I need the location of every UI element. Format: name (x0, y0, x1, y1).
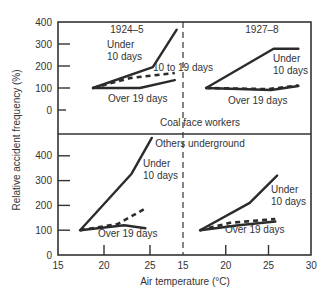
y-tick-label: 100 (35, 83, 52, 94)
y-tick-label: 0 (46, 105, 52, 116)
accident-frequency-chart: 01002003004000100200300400 1520251520253… (0, 0, 331, 303)
annotation-10-19-tl: 10 to 19 days (153, 62, 213, 73)
series-10-to-19-days (93, 73, 175, 88)
annotation-under-10-bl-2: 10 days (143, 170, 178, 181)
annotation-over-19-tr: Over 19 days (228, 95, 287, 106)
x-tick-label: 15 (52, 260, 64, 271)
x-tick-label: 15 (177, 260, 189, 271)
panel-others-1924 (80, 138, 152, 230)
x-tick-label: 20 (220, 260, 232, 271)
y-tick-label: 200 (35, 61, 52, 72)
y-tick-label: 300 (35, 175, 52, 186)
y-tick-label: 0 (46, 250, 52, 261)
y-tick-label: 400 (35, 17, 52, 28)
annotation-under-10-tr-2: 10 days (273, 65, 308, 76)
annotation-over-19-tl: Over 19 days (108, 93, 167, 104)
annotation-over-19-bl: Over 19 days (98, 228, 157, 239)
y-tick-label: 200 (35, 200, 52, 211)
annotation-over-19-br: Over 19 days (225, 224, 284, 235)
group-label-others: Others underground (155, 138, 245, 149)
annotation-under-10-br-2: 10 days (271, 196, 306, 207)
x-axis-ticks: 15202515202530 (52, 245, 317, 271)
y-tick-label: 400 (35, 150, 52, 161)
series-under-10-days (80, 138, 152, 230)
annotation-under-10-tl-1: Under (107, 39, 135, 50)
y-tick-label: 100 (35, 225, 52, 236)
y-axis-ticks: 01002003004000100200300400 (35, 17, 70, 261)
period-label-left: 1924–5 (110, 24, 144, 35)
annotation-under-10-tr-1: Under (273, 53, 301, 64)
annotation-under-10-br-1: Under (271, 184, 299, 195)
x-tick-label: 25 (144, 260, 156, 271)
x-axis-title: Air temperature (°C) (140, 276, 230, 287)
y-tick-label: 300 (35, 39, 52, 50)
annotation-under-10-tl-2: 10 days (107, 51, 142, 62)
annotation-under-10-bl-1: Under (143, 158, 171, 169)
x-tick-label: 20 (98, 260, 110, 271)
panel-others-1927 (200, 176, 277, 231)
period-label-right: 1927–8 (245, 24, 279, 35)
y-axis-title: Relative accident frequency (%) (11, 69, 22, 210)
group-label-coal-face: Coal face workers (160, 117, 240, 128)
x-tick-label: 25 (263, 260, 275, 271)
x-tick-label: 30 (306, 260, 318, 271)
